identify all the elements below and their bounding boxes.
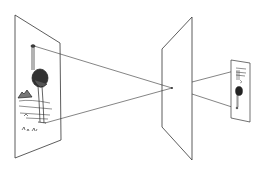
pinhole-point xyxy=(171,87,173,89)
light-rays xyxy=(34,46,238,123)
pinhole-plane xyxy=(162,17,192,160)
pinhole-camera-diagram: Pinhole camera projection xyxy=(0,0,262,177)
ray-head-outgoing xyxy=(192,94,235,108)
ray-feet-incoming xyxy=(45,88,172,123)
